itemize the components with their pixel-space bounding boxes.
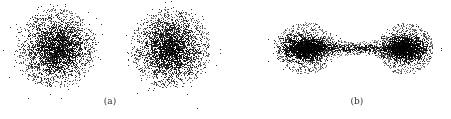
panel-a <box>10 5 215 93</box>
panel-b <box>270 12 435 84</box>
panel-a-label: (a) <box>104 96 116 106</box>
panel-b-label: (b) <box>351 96 364 106</box>
